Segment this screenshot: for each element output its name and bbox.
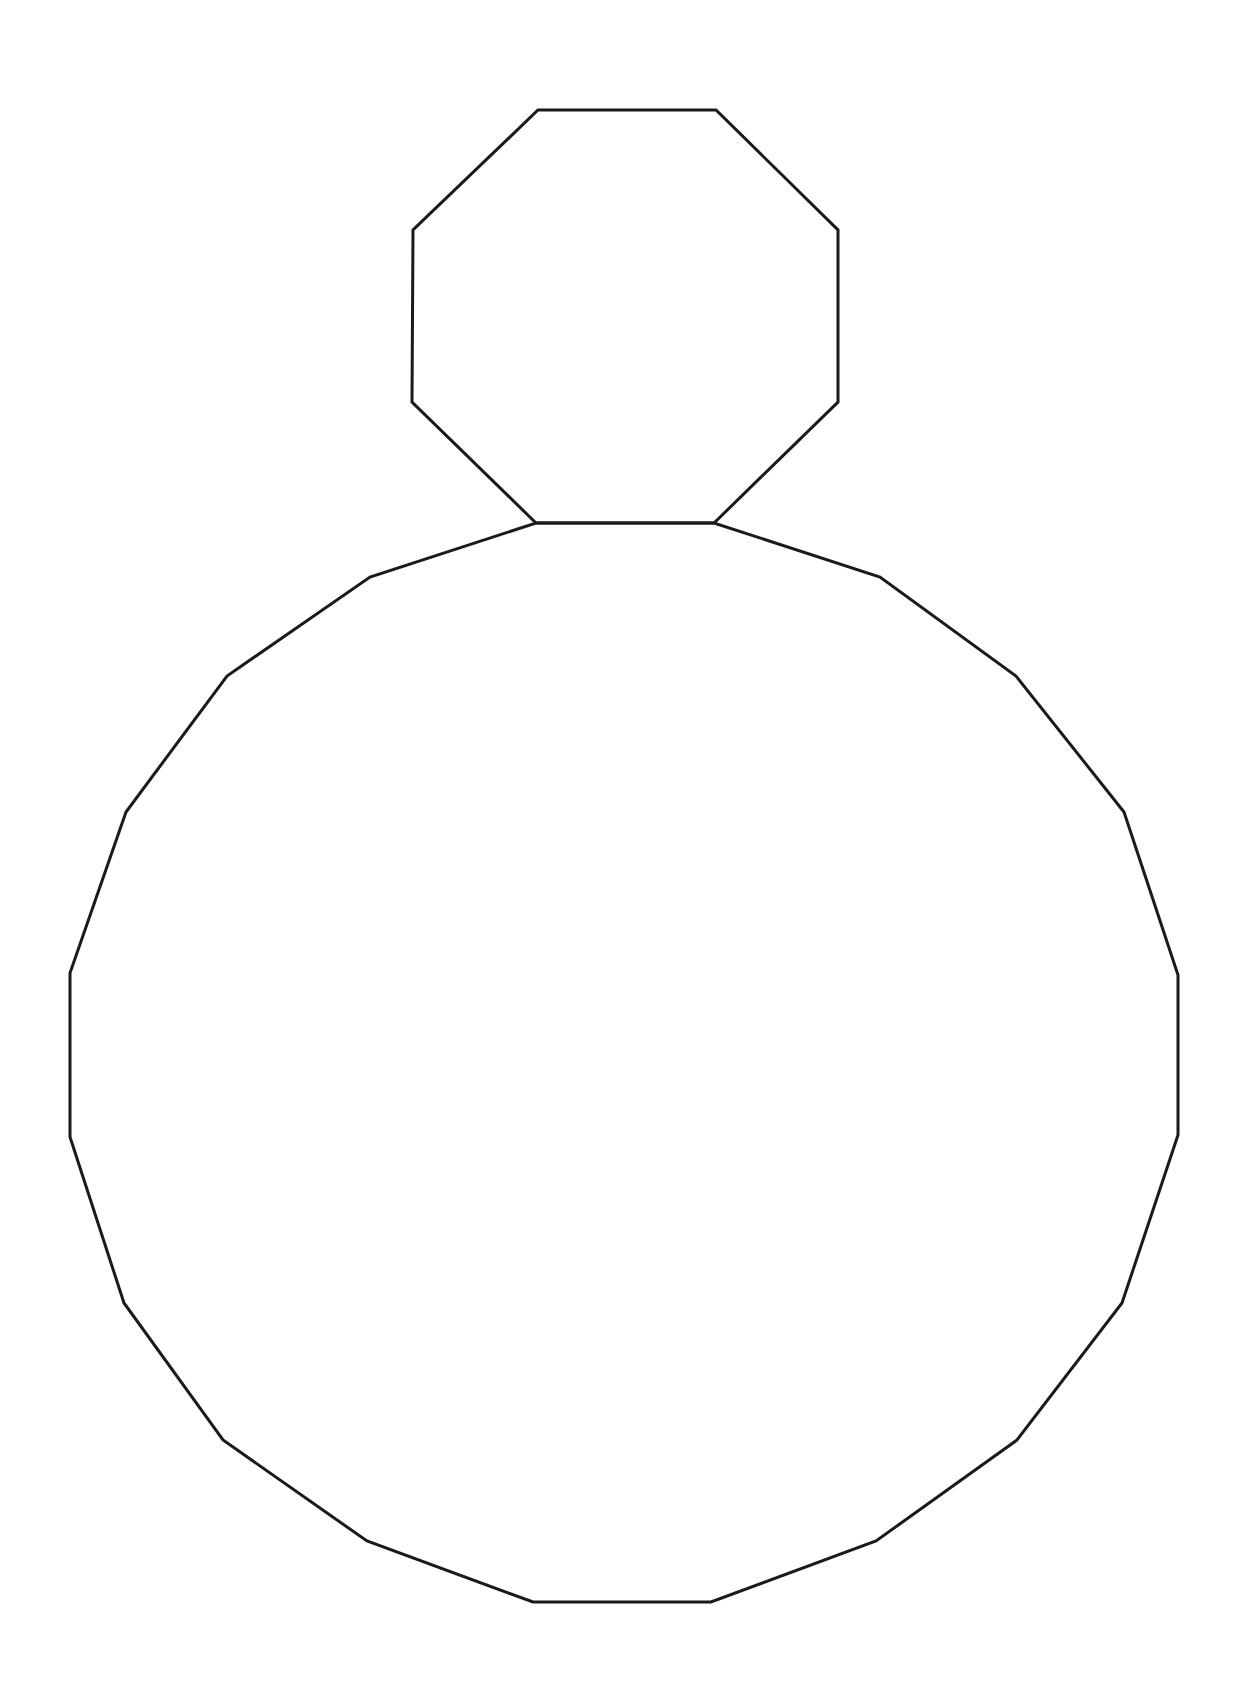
octagon-shape — [412, 110, 838, 523]
polygon-diagram — [0, 0, 1249, 1702]
icosagon-shape — [70, 523, 1178, 1602]
diagram-canvas — [0, 0, 1249, 1702]
